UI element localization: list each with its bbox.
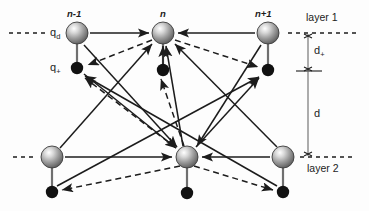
node-dot-bot-center [181, 187, 193, 199]
node-dot-top-right [262, 64, 274, 76]
charge-qplus-sub: + [56, 67, 60, 76]
node-sphere-bot-right [272, 146, 294, 168]
arrow-botcenter-to-dot-botright [194, 166, 273, 190]
charge-qd-sub: d [56, 32, 60, 41]
node-dot-bot-left [46, 186, 58, 198]
dimension-label-d: d [314, 108, 320, 119]
node-dot-bot-right [277, 186, 289, 198]
arrow-dot-topleft-to-botcenter [84, 74, 176, 148]
arrow-dot-botleft-to-dot-topright [57, 77, 259, 186]
arrow-topcenter-to-dot-topright [175, 40, 258, 67]
node-sphere-bot-left [41, 146, 63, 168]
dimension-label-d-plus: d+ [314, 45, 325, 59]
dot-nodes [46, 62, 289, 199]
node-sphere-top-right [257, 22, 279, 44]
arrow-botleft-to-topcenter [60, 44, 152, 148]
node-sphere-bot-center [176, 146, 198, 168]
node-dot-top-center [157, 64, 169, 76]
sphere-nodes [41, 22, 294, 168]
arrow-botcenter-to-dot-topcenter [161, 79, 184, 146]
arrow-topcenter-to-dot-topleft [88, 40, 152, 65]
arrow-botcenter-to-dot-topright [196, 78, 259, 147]
dashed-interaction-arrows [62, 40, 273, 190]
index-label-left: n-1 [67, 9, 81, 19]
node-dot-top-left [71, 62, 83, 74]
dimension-marker-d-total [304, 71, 312, 156]
layer-1-label: layer 1 [306, 12, 338, 23]
d-plus-sub: + [320, 50, 324, 59]
arrow-dot-botright-to-dot-topleft [85, 76, 277, 186]
solid-interaction-arrows [57, 33, 277, 186]
arrow-botcenter-to-dot-botleft [62, 166, 180, 190]
node-sphere-top-left [66, 22, 88, 44]
index-label-center: n [160, 9, 166, 19]
charge-label-qd: qd [50, 27, 60, 41]
diagram-canvas: n-1 n n+1 qd q+ layer 1 layer 2 d+ d [0, 0, 369, 211]
index-label-right: n+1 [255, 9, 272, 19]
node-sphere-top-center [152, 22, 174, 44]
arrow-topright-to-botcenter [197, 45, 261, 146]
layer-2-label: layer 2 [307, 163, 339, 174]
charge-label-qplus: q+ [50, 62, 61, 76]
